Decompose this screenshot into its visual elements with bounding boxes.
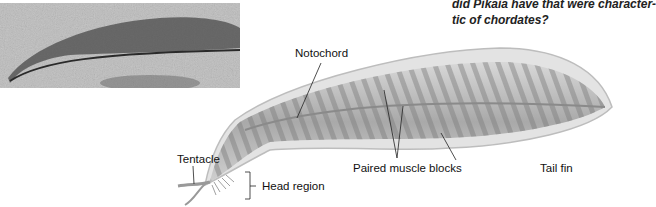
label-head-region: Head region bbox=[262, 180, 325, 192]
label-tentacle: Tentacle bbox=[177, 153, 220, 165]
label-paired-muscle-blocks: Paired muscle blocks bbox=[353, 162, 462, 174]
label-notochord: Notochord bbox=[295, 47, 348, 59]
label-tail-fin: Tail fin bbox=[540, 162, 573, 174]
